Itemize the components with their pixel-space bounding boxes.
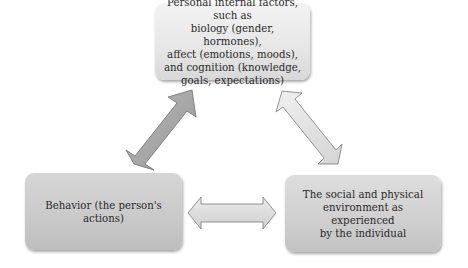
node-environment-label: The social and physical environment as e… bbox=[293, 188, 433, 240]
double-arrow-top-to-environment bbox=[276, 91, 342, 164]
node-behavior-label: Behavior (the person's actions) bbox=[45, 199, 162, 225]
double-arrow-top-to-behavior bbox=[126, 90, 196, 170]
node-personal-factors-label: Personal internal factors, such as biolo… bbox=[163, 0, 302, 87]
node-personal-factors: Personal internal factors, such as biolo… bbox=[155, 3, 310, 80]
node-behavior: Behavior (the person's actions) bbox=[25, 173, 182, 250]
double-arrow-behavior-to-environment bbox=[188, 197, 276, 229]
node-environment: The social and physical environment as e… bbox=[285, 175, 441, 252]
